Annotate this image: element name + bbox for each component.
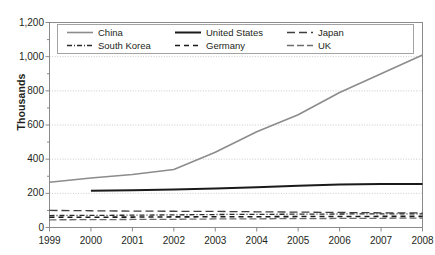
legend-label-japan: Japan [318, 28, 344, 38]
legend-label-united-states: United States [206, 28, 263, 38]
chart-legend: ChinaUnited StatesJapanSouth KoreaGerman… [0, 0, 435, 255]
legend-label-china: China [98, 28, 123, 38]
line-chart: Thousands 02004006008001,0001,200 199920… [0, 0, 435, 255]
legend-label-south-korea: South Korea [98, 41, 151, 51]
legend-label-uk: UK [318, 41, 331, 51]
legend-label-germany: Germany [206, 41, 245, 51]
